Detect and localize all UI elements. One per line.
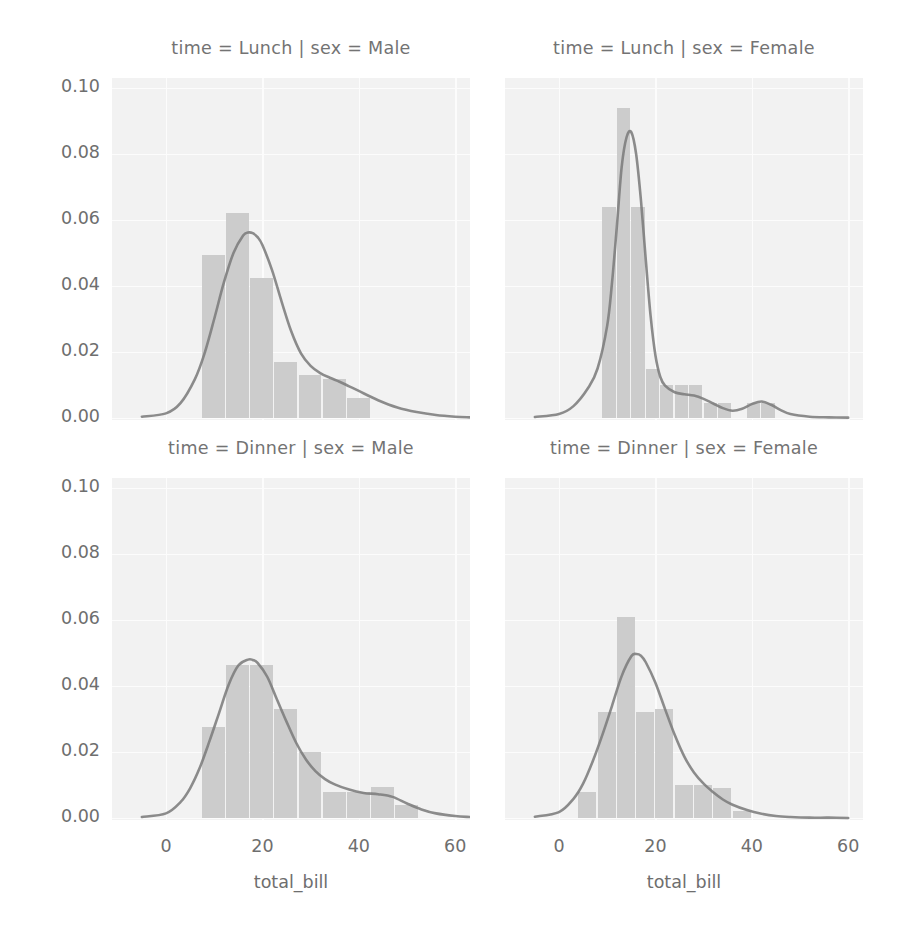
x-axis-label: total_bill <box>505 872 863 892</box>
plot-area <box>112 78 470 420</box>
y-axis-tick-label: 0.00 <box>18 406 100 426</box>
kde-curve <box>505 78 863 420</box>
x-axis-tick-label: 20 <box>222 836 302 856</box>
panel-title: time = Lunch | sex = Male <box>112 38 470 58</box>
x-axis-tick-label: 60 <box>415 836 495 856</box>
y-axis-tick-label: 0.04 <box>18 674 100 694</box>
plot-area <box>112 478 470 820</box>
x-axis-tick-label: 20 <box>615 836 695 856</box>
x-axis-tick-label: 0 <box>126 836 206 856</box>
panel-title: time = Lunch | sex = Female <box>505 38 863 58</box>
y-axis-tick-label: 0.00 <box>18 806 100 826</box>
y-axis-tick-label: 0.08 <box>18 142 100 162</box>
kde-curve <box>505 478 863 820</box>
facet-grid-figure: time = Lunch | sex = Male0.000.020.040.0… <box>0 0 902 948</box>
x-axis-tick-label: 40 <box>319 836 399 856</box>
x-axis-tick-label: 60 <box>808 836 888 856</box>
y-axis-tick-label: 0.04 <box>18 274 100 294</box>
y-axis-tick-label: 0.02 <box>18 740 100 760</box>
y-axis-tick-label: 0.10 <box>18 76 100 96</box>
y-axis-tick-label: 0.06 <box>18 608 100 628</box>
y-axis-tick-label: 0.10 <box>18 476 100 496</box>
y-axis-tick-label: 0.06 <box>18 208 100 228</box>
plot-area <box>505 478 863 820</box>
y-axis-tick-label: 0.02 <box>18 340 100 360</box>
panel-title: time = Dinner | sex = Female <box>505 438 863 458</box>
x-axis-tick-label: 40 <box>712 836 792 856</box>
kde-curve <box>112 78 470 420</box>
x-axis-tick-label: 0 <box>519 836 599 856</box>
x-axis-label: total_bill <box>112 872 470 892</box>
kde-curve <box>112 478 470 820</box>
y-axis-tick-label: 0.08 <box>18 542 100 562</box>
plot-area <box>505 78 863 420</box>
panel-title: time = Dinner | sex = Male <box>112 438 470 458</box>
